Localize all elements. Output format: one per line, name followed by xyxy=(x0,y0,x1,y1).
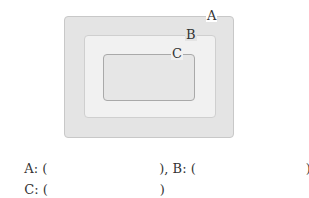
set-b-label: B xyxy=(185,28,197,41)
answer-row-2: C: () xyxy=(16,169,165,197)
set-c-rectangle xyxy=(103,54,195,101)
answer-c-prefix: C: ( xyxy=(24,182,48,197)
set-a-label: A xyxy=(206,9,217,22)
answer-b-suffix: ), xyxy=(306,161,309,176)
answer-c-suffix: ) xyxy=(160,182,165,197)
set-c-label: C xyxy=(171,47,183,60)
